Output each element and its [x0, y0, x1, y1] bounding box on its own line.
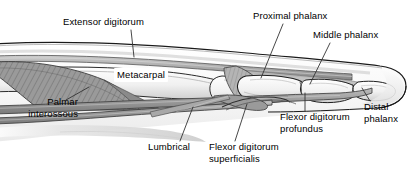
label-distal-phalanx: Distal phalanx: [364, 101, 398, 124]
label-metacarpal: Metacarpal: [114, 68, 168, 82]
anatomy-illustration: [0, 0, 412, 174]
label-line: superficialis: [209, 153, 279, 165]
label-line: Flexor digitorum: [280, 111, 350, 123]
anatomy-figure: Extensor digitorum Metacarpal Palmar int…: [0, 0, 412, 174]
label-line: Middle phalanx: [313, 29, 378, 41]
label-line: Extensor digitorum: [63, 16, 144, 28]
label-line: Proximal phalanx: [253, 10, 327, 22]
label-line: Flexor digitorum: [209, 141, 279, 153]
label-flexor-digitorum-profundus: Flexor digitorum profundus: [280, 111, 350, 134]
label-line: Distal: [364, 101, 398, 113]
label-line: Palmar: [0, 96, 78, 108]
label-line: Metacarpal: [117, 69, 165, 81]
label-flexor-digitorum-superficialis: Flexor digitorum superficialis: [209, 141, 279, 164]
label-palmar-interossous: Palmar interossous: [0, 96, 78, 119]
label-line: profundus: [280, 123, 350, 135]
label-extensor-digitorum: Extensor digitorum: [63, 16, 144, 28]
label-line: Lumbrical: [148, 141, 190, 153]
palmar-soft-tissue: [0, 125, 206, 142]
label-line: phalanx: [364, 113, 398, 125]
label-middle-phalanx: Middle phalanx: [313, 29, 378, 41]
label-line: interossous: [0, 108, 78, 120]
label-lumbrical: Lumbrical: [148, 141, 190, 153]
label-proximal-phalanx: Proximal phalanx: [253, 10, 327, 22]
